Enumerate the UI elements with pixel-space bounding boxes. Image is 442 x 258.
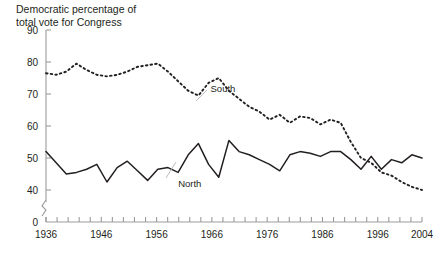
series-annotations: SouthNorth [166,83,235,188]
y-tick-label-zero: 0 [32,217,38,228]
y-tick-label: 90 [27,25,39,36]
x-tick-label: 1986 [311,229,334,240]
y-tick-label: 50 [27,153,39,164]
y-tick-label: 70 [27,89,39,100]
y-tick-label: 40 [27,185,39,196]
chart-figure: Democratic percentage of total vote for … [0,0,442,258]
y-tick-label: 80 [27,57,39,68]
x-tick-label: 1956 [145,229,168,240]
x-tick-label: 1946 [90,229,113,240]
series-line-north [46,140,422,182]
y-tick-label: 60 [27,121,39,132]
y-axis-break-icon [42,200,46,216]
series-label-north: North [178,178,201,189]
x-tick-label: 2004 [411,229,434,240]
y-axis: 9080706050400 [27,25,51,228]
x-axis: 19361946195619661976198619962004 [35,217,434,240]
series-label-south: South [211,83,236,94]
x-tick-label: 1976 [256,229,279,240]
x-tick-label: 1936 [35,229,58,240]
x-tick-label: 1966 [201,229,224,240]
x-tick-label: 1996 [367,229,390,240]
chart-title-line-1: Democratic percentage of [16,3,136,15]
